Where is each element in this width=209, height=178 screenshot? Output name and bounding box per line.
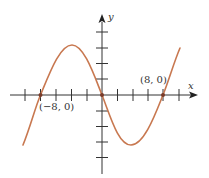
left-root-label: (−8, 0)	[39, 101, 74, 112]
root-point-neg8	[39, 93, 43, 97]
cubic-graph	[0, 0, 209, 178]
right-root-label: (8, 0)	[140, 74, 167, 85]
x-axis-label: x	[188, 80, 194, 91]
y-axis-arrow-icon	[99, 14, 106, 23]
root-point-8	[161, 93, 165, 97]
root-point-origin	[100, 93, 104, 97]
y-axis-label: y	[108, 11, 114, 22]
